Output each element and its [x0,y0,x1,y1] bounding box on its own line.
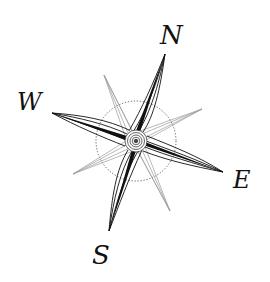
east-label: E [233,168,251,192]
compass-rose [0,0,270,282]
center-hub [125,130,147,152]
west-ray [52,113,129,146]
south-label: S [92,242,110,268]
south-ray [109,150,142,231]
north-label: N [160,22,183,48]
north-ray [129,54,165,132]
west-label: W [17,90,42,114]
east-ray [143,136,223,172]
